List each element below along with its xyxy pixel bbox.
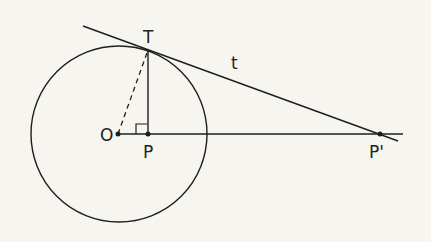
- label-P: P: [143, 142, 153, 162]
- point-O: [116, 132, 121, 137]
- label-T: T: [142, 27, 154, 47]
- point-P: [146, 132, 151, 137]
- label-t: t: [231, 53, 238, 73]
- point-P-prime: [378, 132, 383, 137]
- radius-dashed-OT: [118, 50, 148, 134]
- tangent-diagram: T t O P P': [0, 0, 431, 242]
- label-P-prime: P': [369, 142, 384, 162]
- tangent-line-t: [83, 26, 398, 141]
- label-O: O: [100, 125, 113, 145]
- right-angle-marker: [136, 124, 147, 134]
